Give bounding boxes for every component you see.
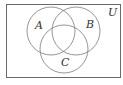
set-c-label: C [61,56,70,69]
set-a-label: A [34,19,43,32]
set-b-label: B [85,18,94,31]
universe-label: U [108,6,118,19]
venn-diagram: U A B C [0,0,123,85]
set-b-circle [52,7,100,55]
